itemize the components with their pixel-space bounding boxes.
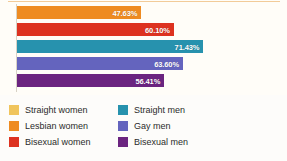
chart-plot-area: 47.63% 60.10% 71.43% 63.60% 56.41% [0,0,287,95]
bar-row: 47.63% [17,6,141,19]
bar-value-label: 47.63% [112,8,137,17]
bar-value-label: 56.41% [135,76,160,85]
legend-label: Bisexual women [25,138,91,147]
bar-value-label: 60.10% [145,25,170,34]
bar-row: 71.43% [17,40,203,53]
legend-label: Gay men [134,122,171,131]
top-rule-divider [8,1,280,2]
chart-legend: Straight women Lesbian women Bisexual wo… [0,98,287,161]
bar-row: 56.41% [17,74,164,87]
bar-value-label: 71.43% [175,42,200,51]
bar-value-label: 63.60% [154,59,179,68]
bar-row: 60.10% [17,23,174,36]
legend-swatch-icon [118,105,128,115]
legend-swatch-icon [118,121,128,131]
legend-label: Straight men [134,106,185,115]
legend-column-men: Straight men Gay men Bisexual men [118,102,188,150]
bar-gay-men[interactable]: 63.60% [17,57,183,70]
legend-item-gay-men[interactable]: Gay men [118,118,188,134]
bar-straight-men[interactable]: 71.43% [17,40,203,53]
legend-item-lesbian-women[interactable]: Lesbian women [9,118,91,134]
bar-bisexual-men[interactable]: 56.41% [17,74,164,87]
legend-label: Bisexual men [134,138,188,147]
legend-swatch-icon [9,137,19,147]
bar-lesbian-women[interactable]: 47.63% [17,6,141,19]
bar-row: 63.60% [17,57,183,70]
legend-column-women: Straight women Lesbian women Bisexual wo… [9,102,91,150]
bar-bisexual-women[interactable]: 60.10% [17,23,174,36]
legend-item-bisexual-women[interactable]: Bisexual women [9,134,91,150]
legend-label: Lesbian women [25,122,88,131]
legend-swatch-icon [9,121,19,131]
legend-item-straight-men[interactable]: Straight men [118,102,188,118]
legend-item-straight-women[interactable]: Straight women [9,102,91,118]
legend-item-bisexual-men[interactable]: Bisexual men [118,134,188,150]
legend-swatch-icon [118,137,128,147]
legend-label: Straight women [25,106,88,115]
legend-swatch-icon [9,105,19,115]
